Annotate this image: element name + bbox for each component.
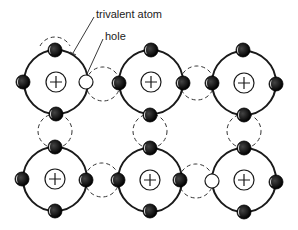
- electron: [16, 75, 30, 89]
- electron: [144, 43, 158, 57]
- nucleus-r2c3: [234, 170, 254, 190]
- nucleus-r1c1: [46, 72, 66, 92]
- electrons: [15, 43, 283, 219]
- electron: [15, 172, 29, 186]
- electron: [269, 77, 283, 91]
- electron: [176, 76, 190, 90]
- nucleus-r1c3: [234, 73, 254, 93]
- electron: [111, 173, 125, 187]
- electron: [237, 205, 251, 219]
- nucleus-r1c2: [141, 72, 161, 92]
- electron: [48, 43, 62, 57]
- pointer-trivalent-atom: [73, 17, 94, 53]
- hole-r2c3: [205, 174, 219, 188]
- electron: [237, 108, 251, 122]
- electron: [48, 204, 62, 218]
- lattice-diagram: [0, 0, 298, 230]
- nucleus-r2c2: [140, 170, 160, 190]
- electron: [143, 108, 157, 122]
- electron: [143, 204, 157, 218]
- electron: [236, 43, 250, 57]
- electron: [112, 76, 126, 90]
- nuclei: [45, 72, 254, 190]
- electron: [173, 173, 187, 187]
- electron: [48, 140, 62, 154]
- electron: [79, 173, 93, 187]
- nucleus-r2c1: [45, 169, 65, 189]
- electron: [205, 76, 219, 90]
- label-trivalent-atom: trivalent atom: [96, 8, 162, 20]
- electron: [269, 175, 283, 189]
- hole-r1c1: [79, 75, 93, 89]
- electron: [237, 141, 251, 155]
- electron: [49, 107, 63, 121]
- pointers: [70, 17, 103, 74]
- label-hole: hole: [105, 30, 126, 42]
- electron: [143, 141, 157, 155]
